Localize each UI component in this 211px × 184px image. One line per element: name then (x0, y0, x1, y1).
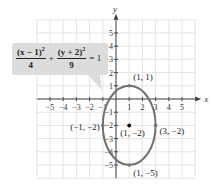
y-tick-label: 5 (109, 29, 113, 38)
point-label: (1, −5) (133, 168, 158, 178)
ellipse-equation: (x − 1)2 4 + (y + 2)2 9 = 1 (15, 44, 103, 71)
y-axis-label: y (112, 4, 117, 14)
x-tick-label: 5 (180, 103, 184, 112)
data-point (154, 124, 158, 128)
x-axis-arrow-icon (195, 97, 201, 102)
data-point (101, 124, 105, 128)
x-tick-label: −2 (85, 103, 94, 112)
x-tick-label: −5 (46, 103, 55, 112)
x-axis-label: x (203, 94, 208, 104)
y-tick-label: −2 (104, 121, 113, 130)
x-tick-label: −3 (72, 103, 81, 112)
x-tick-label: −4 (59, 103, 68, 112)
x-tick-label: 4 (167, 103, 171, 112)
y-axis-arrow-icon (114, 14, 119, 20)
point-label: (1, −2) (120, 128, 145, 138)
y-tick-label: 4 (109, 42, 113, 51)
ellipse-graph: xy−5−4−3−2−11234554321−1−2−3−4−5(1, 1)(1… (0, 0, 211, 184)
data-point (127, 163, 131, 167)
x-tick-label: 2 (140, 103, 144, 112)
data-point (127, 84, 131, 88)
fraction-y: (y + 2)2 9 (57, 44, 87, 71)
y-tick-label: −5 (104, 161, 113, 170)
point-label: (1, 1) (133, 72, 153, 82)
x-tick-label: 1 (127, 103, 131, 112)
data-point (127, 123, 131, 127)
y-tick-label: 3 (109, 55, 113, 64)
fraction-x: (x − 1)2 4 (16, 44, 46, 71)
point-label: (−1, −2) (70, 122, 100, 132)
y-tick-label: 2 (109, 69, 113, 78)
y-tick-label: 1 (109, 82, 113, 91)
point-label: (3, −2) (160, 126, 185, 136)
